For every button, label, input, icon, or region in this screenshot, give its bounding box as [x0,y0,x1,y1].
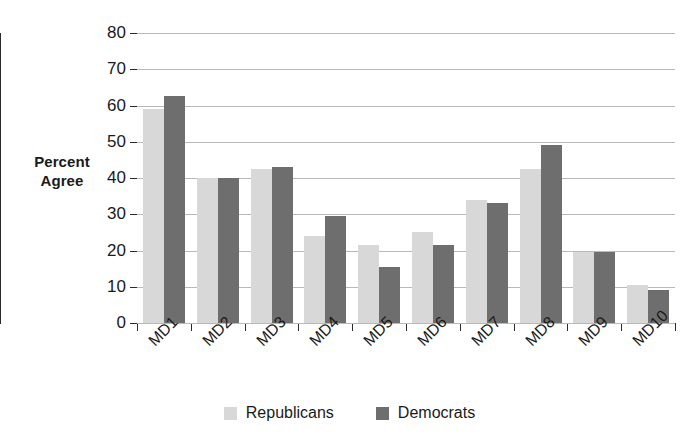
bar-republicans-md1 [143,109,164,323]
bar-democrats-md3 [272,167,293,323]
bars-layer [137,33,675,323]
bar-group [466,33,508,323]
legend-swatch-icon [376,407,389,420]
y-tick-label: 30 [107,204,126,224]
legend-item-republicans[interactable]: Republicans [224,404,334,422]
y-tick-label: 70 [107,59,126,79]
y-tick-mark [130,69,137,70]
bar-democrats-md7 [487,203,508,323]
plot-area: 01020304050607080 [137,33,675,323]
y-tick-label: 60 [107,96,126,116]
y-tick-label: 50 [107,132,126,152]
x-tick-mark [406,324,407,331]
legend-label: Democrats [398,404,475,422]
bar-group [627,33,669,323]
y-axis-line [0,33,1,324]
y-tick-label: 10 [107,277,126,297]
bar-republicans-md2 [197,178,218,323]
y-tick-mark [130,33,137,34]
y-tick-mark [130,323,137,324]
bar-group [304,33,346,323]
bar-republicans-md7 [466,200,487,323]
bar-group [143,33,185,323]
bar-republicans-md6 [412,232,433,323]
y-tick-mark [130,142,137,143]
bar-group [197,33,239,323]
legend-swatch-icon [224,407,237,420]
y-tick-label: 20 [107,241,126,261]
y-tick-mark [130,251,137,252]
chart-legend: RepublicansDemocrats [0,404,699,422]
legend-item-democrats[interactable]: Democrats [376,404,475,422]
bar-group [520,33,562,323]
bar-democrats-md4 [325,216,346,323]
y-axis-title-line-2: Agree [14,171,110,190]
y-tick-label: 40 [107,168,126,188]
bar-democrats-md8 [541,145,562,323]
bar-republicans-md5 [358,245,379,323]
y-axis-title: Percent Agree [14,152,110,190]
bar-republicans-md9 [573,252,594,323]
bar-chart-figure: Percent Agree 01020304050607080 MD1MD2MD… [0,0,699,445]
y-tick-label: 80 [107,23,126,43]
x-tick-mark [245,324,246,331]
bar-democrats-md9 [594,252,615,323]
x-tick-mark [298,324,299,331]
bar-democrats-md1 [164,96,185,323]
x-tick-mark [137,324,138,331]
bar-group [573,33,615,323]
x-tick-mark [191,324,192,331]
x-tick-mark [460,324,461,331]
x-tick-mark [621,324,622,331]
x-tick-mark [514,324,515,331]
bar-republicans-md4 [304,236,325,323]
y-tick-mark [130,214,137,215]
bar-republicans-md3 [251,169,272,323]
legend-label: Republicans [246,404,334,422]
y-axis-title-line-1: Percent [14,152,110,171]
bar-group [251,33,293,323]
x-tick-mark [352,324,353,331]
x-tick-mark [675,324,676,331]
bar-democrats-md2 [218,178,239,323]
bar-republicans-md8 [520,169,541,323]
bar-democrats-md6 [433,245,454,323]
y-tick-label: 0 [117,313,126,333]
y-tick-mark [130,106,137,107]
bar-republicans-md10 [627,285,648,323]
x-tick-mark [567,324,568,331]
bar-group [412,33,454,323]
y-tick-mark [130,287,137,288]
bar-group [358,33,400,323]
y-tick-mark [130,178,137,179]
